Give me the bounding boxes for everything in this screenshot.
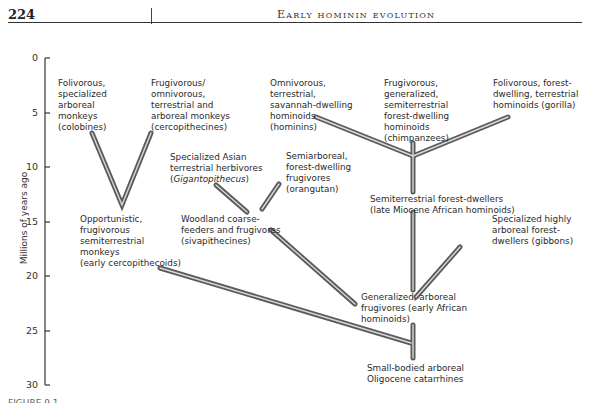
tick-30: 30 xyxy=(18,379,38,390)
node-gigantopithecus: Specialized Asianterrestrial herbivores … xyxy=(170,152,263,185)
axis-title: Millions of years ago xyxy=(19,172,29,264)
node-cercopithecines: Frugivorous/omnivorous,terrestrial andar… xyxy=(151,78,230,133)
node-gorilla: Folivorous, forest-dwelling, terrestrial… xyxy=(493,78,578,111)
node-late-miocene: Semiterrestrial forest-dwellers(late Mio… xyxy=(370,194,515,216)
tick-25: 25 xyxy=(18,325,38,336)
tick-10: 10 xyxy=(18,161,38,172)
node-sivapithecines: Woodland coarse-feeders and frugivores(s… xyxy=(181,214,281,247)
node-early-african-hominoids: Generalized, arborealfrugivores (early A… xyxy=(361,292,467,325)
node-gibbons: Specialized highlyarboreal forest-dwelle… xyxy=(492,214,573,247)
time-axis xyxy=(45,58,50,385)
node-colobines: Folivorous,specializedarborealmonkeys(co… xyxy=(58,78,107,133)
figure-caption-cutoff: FIGURE 9.1 ... xyxy=(8,398,268,403)
node-early-cercopithecoids: Opportunistic,frugivoroussemiterrestrial… xyxy=(80,214,181,269)
node-oligocene-catarrhines: Small-bodied arborealOligocene catarrhin… xyxy=(367,363,464,385)
node-chimpanzees: Frugivorous,generalized,semiterrestrialf… xyxy=(384,78,449,144)
tick-20: 20 xyxy=(18,270,38,281)
tick-0: 0 xyxy=(18,52,38,63)
tick-5: 5 xyxy=(18,107,38,118)
node-orangutan: Semiarboreal,forest-dwellingfrugivores(o… xyxy=(286,151,351,195)
node-hominins: Omnivorous,terrestrial,savannah-dwelling… xyxy=(270,78,353,133)
